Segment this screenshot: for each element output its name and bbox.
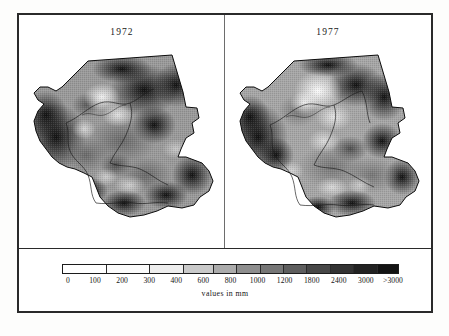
panel-title-1972: 1972 <box>19 27 225 37</box>
map-panels-region: 1972 <box>19 15 431 248</box>
legend-segment-6 <box>261 265 284 273</box>
legend-region: 010020030040060080010001200180024003000>… <box>19 249 431 311</box>
rainfall-map-1977 <box>232 45 426 225</box>
legend-segment-0 <box>63 265 107 273</box>
rainfall-map-1972 <box>26 45 220 225</box>
panel-title-1977: 1977 <box>225 27 431 37</box>
legend-segment-8 <box>307 265 330 273</box>
legend-tick-100: 100 <box>89 276 101 285</box>
map-panel-1977: 1977 <box>225 15 431 248</box>
legend-segment-4 <box>214 265 237 273</box>
legend-tick-1000: 1000 <box>250 276 266 285</box>
figure-frame: 1972 <box>17 13 433 313</box>
legend-tick-0: 0 <box>66 276 70 285</box>
legend-tick-400: 400 <box>170 276 182 285</box>
legend-segment-11 <box>378 265 398 273</box>
map-panel-1972: 1972 <box>19 15 225 248</box>
legend-segment-5 <box>237 265 260 273</box>
legend-tick-2400: 2400 <box>331 276 347 285</box>
legend-segment-10 <box>354 265 377 273</box>
legend-tick-600: 600 <box>198 276 210 285</box>
map-raster-1972 <box>26 45 220 225</box>
legend-segment-2 <box>150 265 184 273</box>
legend-caption: values in mm <box>19 289 431 298</box>
legend-tick-300: 300 <box>143 276 155 285</box>
legend-segment-3 <box>184 265 214 273</box>
scan-edge <box>19 316 431 330</box>
legend-segment-9 <box>331 265 354 273</box>
legend-segment-1 <box>107 265 151 273</box>
panel-divider <box>224 15 225 248</box>
legend-tick-1800: 1800 <box>304 276 320 285</box>
figure-root: 1972 <box>0 0 449 336</box>
legend-tick-200: 200 <box>116 276 128 285</box>
legend-colorbar <box>62 264 399 274</box>
legend-tick-800: 800 <box>225 276 237 285</box>
legend-tick-1200: 1200 <box>277 276 293 285</box>
legend-segment-7 <box>284 265 307 273</box>
legend-tick-gt3000: >3000 <box>383 276 403 285</box>
legend-tick-labels: 010020030040060080010001200180024003000>… <box>19 276 431 288</box>
map-raster-1977 <box>232 45 426 225</box>
legend-tick-3000: 3000 <box>358 276 374 285</box>
